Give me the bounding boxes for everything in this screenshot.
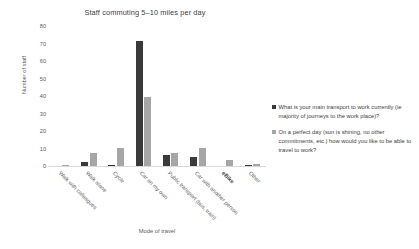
bar-group xyxy=(130,27,157,167)
x-label-slot: Cycle xyxy=(103,168,130,226)
x-axis-title: Mode of travel xyxy=(48,228,266,234)
bar xyxy=(117,148,124,167)
bar xyxy=(171,153,178,167)
x-label-slot: Other xyxy=(239,168,266,226)
bars-layer xyxy=(48,27,266,167)
y-axis-tick: 30 xyxy=(40,112,46,118)
y-axis-tick: 10 xyxy=(40,147,46,153)
bar-chart: Staff commuting 5–10 miles per day Numbe… xyxy=(0,0,419,249)
y-axis-tick-labels: 80706050403020100 xyxy=(26,27,46,167)
legend-label: On a perfect day (sun is shining, no oth… xyxy=(279,128,418,155)
y-axis-tick: 80 xyxy=(40,24,46,30)
legend-swatch-icon xyxy=(272,105,276,109)
chart-legend: What is your main transport to work curr… xyxy=(272,103,417,162)
y-axis-tick: 0 xyxy=(43,164,46,170)
x-label-slot: Car with another person xyxy=(184,168,211,226)
legend-entry[interactable]: On a perfect day (sun is shining, no oth… xyxy=(272,128,417,155)
bar-group xyxy=(239,27,266,167)
x-axis-category-labels: Walk with colleaguesWalk aloneCycleCar o… xyxy=(48,168,266,226)
bar xyxy=(90,153,97,167)
bar-group xyxy=(48,27,75,167)
bar-group xyxy=(103,27,130,167)
x-label-slot: Public transport (bus, train) xyxy=(157,168,184,226)
y-axis-tick: 50 xyxy=(40,77,46,83)
bar-group xyxy=(184,27,211,167)
bar xyxy=(136,41,143,167)
bar-group xyxy=(157,27,184,167)
y-axis-tick: 60 xyxy=(40,59,46,65)
bar-group xyxy=(212,27,239,167)
x-label-slot: Car on my own xyxy=(130,168,157,226)
x-label-slot: eBike xyxy=(212,168,239,226)
bar-group xyxy=(75,27,102,167)
x-axis-category-label: eBike xyxy=(221,170,236,185)
plot-area xyxy=(48,27,266,167)
chart-title: Staff commuting 5–10 miles per day xyxy=(0,8,290,17)
x-axis-category-label: Cycle xyxy=(112,170,126,184)
legend-label: What is your main transport to work curr… xyxy=(279,103,418,121)
bar xyxy=(199,148,206,167)
y-axis-tick: 40 xyxy=(40,94,46,100)
x-axis-baseline xyxy=(48,166,266,167)
x-label-slot: Walk alone xyxy=(75,168,102,226)
x-label-slot: Walk with colleagues xyxy=(48,168,75,226)
y-axis-tick: 70 xyxy=(40,42,46,48)
legend-entry[interactable]: What is your main transport to work curr… xyxy=(272,103,417,121)
y-axis-tick: 20 xyxy=(40,129,46,135)
bar xyxy=(144,97,151,167)
legend-swatch-icon xyxy=(272,130,276,134)
x-axis-category-label: Other xyxy=(248,170,262,184)
